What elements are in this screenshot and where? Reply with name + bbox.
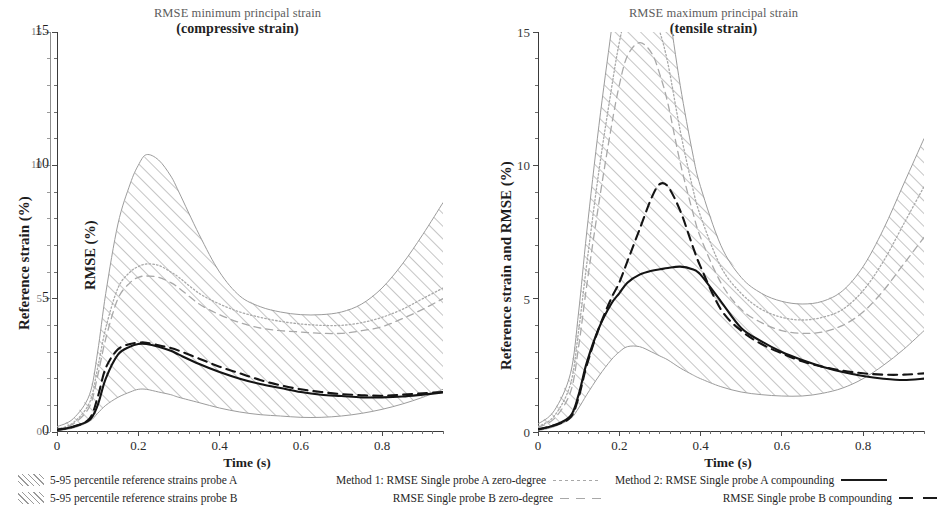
outer-y-minor-tick [47, 245, 50, 246]
panel-left-x-axis-title: Time (s) [157, 455, 337, 471]
line-sample-m2-probe-b-icon [899, 497, 945, 499]
y-axis-tick-label: 0 [17, 423, 49, 439]
outer-y-minor-tick [47, 378, 50, 379]
panel-right-curves [538, 32, 924, 432]
figure-legend: 5-95 percentile reference strains probe … [0, 470, 951, 509]
panel-left-title-line1: RMSE minimum principal strain [0, 6, 475, 21]
y-axis-tick-label: 10 [17, 156, 49, 172]
outer-y-minor-tick [47, 58, 50, 59]
outer-y-minor-tick [47, 85, 50, 86]
legend-item-m1-probe-a: Method 1: RMSE Single probe A zero-degre… [336, 472, 606, 488]
x-axis-tick-label: 0.6 [762, 438, 802, 454]
x-axis-tick-label: 0 [37, 438, 77, 454]
x-axis-tick-label: 0 [518, 438, 558, 454]
figure-root: RMSE minimum principal strain (compressi… [0, 0, 951, 509]
legend-item-m2-probe-b: RMSE Single probe B compounding [615, 490, 945, 506]
y-axis-tick-label: 15 [498, 25, 530, 41]
legend-group-method2: Method 2: RMSE Single probe A compoundin… [615, 470, 945, 506]
panel-minimum-principal-strain: RMSE minimum principal strain (compressi… [0, 0, 475, 470]
x-axis-tick-label: 0.4 [200, 438, 240, 454]
panel-left-y-axis-outer-title: Reference strain (%) [16, 196, 33, 330]
panel-maximum-principal-strain: RMSE maximum principal strain (tensile s… [476, 0, 951, 470]
legend-item-band-probe-b: 5-95 percentile reference strains probe … [18, 490, 318, 506]
outer-y-minor-tick [47, 138, 50, 139]
hatch-swatch-probe-b-icon [18, 492, 44, 504]
legend-item-m2-probe-a: Method 2: RMSE Single probe A compoundin… [615, 472, 945, 488]
reference-strain-band [57, 155, 443, 431]
reference-strain-band [538, 32, 924, 431]
line-sample-m2-probe-a-icon [841, 479, 887, 481]
outer-y-minor-tick [47, 218, 50, 219]
outer-y-minor-tick [47, 112, 50, 113]
legend-label-m2-probe-b: RMSE Single probe B compounding [723, 492, 892, 505]
x-axis-tick-label: 0.8 [362, 438, 402, 454]
legend-label-m1-probe-b: RMSE Single probe B zero-degree [393, 492, 553, 505]
panel-right-x-axis-title: Time (s) [638, 455, 818, 471]
outer-y-minor-tick [47, 352, 50, 353]
legend-item-m1-probe-b: RMSE Single probe B zero-degree [336, 490, 606, 506]
x-axis-tick-label: 0.2 [599, 438, 639, 454]
legend-label-band-probe-a: 5-95 percentile reference strains probe … [50, 474, 237, 487]
panel-right-y-axis-title: Reference strain and RMSE (%) [498, 161, 515, 370]
legend-item-band-probe-a: 5-95 percentile reference strains probe … [18, 472, 318, 488]
panel-right-title-line1: RMSE maximum principal strain [476, 6, 951, 21]
outer-y-minor-tick [47, 325, 50, 326]
y-axis-tick-label: 15 [17, 23, 49, 39]
outer-y-minor-tick [47, 405, 50, 406]
panel-left-outer-y-axis [50, 32, 51, 432]
line-sample-m1-probe-a-icon [553, 480, 599, 481]
x-axis-tick-label: 0.6 [281, 438, 321, 454]
y-axis-tick-label: 5 [17, 290, 49, 306]
outer-y-minor-tick [47, 272, 50, 273]
y-axis-tick-label: 5 [498, 292, 530, 308]
legend-label-m2-probe-a: Method 2: RMSE Single probe A compoundin… [615, 474, 834, 487]
hatch-swatch-probe-a-icon [18, 474, 44, 486]
x-axis-tick-label: 0.2 [118, 438, 158, 454]
panel-right-plot-area [538, 32, 924, 432]
legend-label-m1-probe-a: Method 1: RMSE Single probe A zero-degre… [336, 474, 546, 487]
legend-group-reference-bands: 5-95 percentile reference strains probe … [18, 470, 318, 506]
legend-label-band-probe-b: 5-95 percentile reference strains probe … [50, 492, 237, 505]
x-axis-tick-label: 0.8 [843, 438, 883, 454]
legend-group-method1: Method 1: RMSE Single probe A zero-degre… [336, 470, 606, 506]
y-axis-tick-label: 10 [498, 158, 530, 174]
outer-y-minor-tick [47, 192, 50, 193]
line-sample-m1-probe-b-icon [560, 498, 606, 499]
x-axis-tick-label: 0.4 [681, 438, 721, 454]
panel-left-plot-area [57, 32, 443, 432]
panel-left-curves [57, 32, 443, 432]
